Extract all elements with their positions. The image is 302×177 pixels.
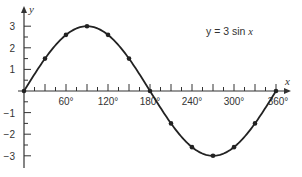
- data-point: [22, 89, 27, 94]
- equation-variable: x: [247, 26, 253, 37]
- x-tick-label: 240°: [182, 96, 203, 107]
- data-point: [274, 89, 279, 94]
- equation-annotation: y = 3 sin x: [206, 25, 253, 37]
- equation-prefix: y = 3 sin: [206, 25, 248, 37]
- x-axis-arrow-icon: [284, 88, 291, 94]
- data-point: [127, 56, 132, 61]
- x-tick-label: 360°: [268, 96, 289, 107]
- y-tick-label: −3: [4, 151, 16, 162]
- data-point: [43, 56, 48, 61]
- y-axis-label: y: [28, 3, 34, 15]
- data-point: [85, 24, 90, 29]
- data-point: [64, 33, 69, 38]
- x-axis-label: x: [284, 75, 290, 87]
- y-axis-arrow-icon: [21, 6, 27, 13]
- y-tick-label: 1: [9, 64, 15, 75]
- data-point: [169, 121, 174, 126]
- data-point: [148, 89, 153, 94]
- data-point: [253, 121, 258, 126]
- y-tick-label: −2: [4, 129, 16, 140]
- data-point: [190, 145, 195, 150]
- x-tick-label: 60°: [58, 96, 73, 107]
- x-tick-label: 300°: [224, 96, 245, 107]
- y-tick-label: −1: [4, 108, 16, 119]
- data-point: [106, 33, 111, 38]
- y-tick-label: 2: [9, 43, 15, 54]
- x-tick-label: 120°: [98, 96, 119, 107]
- y-tick-label: 3: [9, 21, 15, 32]
- x-ticks: 60°120°180°240°300°360°: [35, 84, 289, 107]
- data-point: [211, 154, 216, 159]
- sine-chart: 60°120°180°240°300°360° 321−1−2−3 x y y …: [0, 0, 302, 177]
- data-point: [232, 145, 237, 150]
